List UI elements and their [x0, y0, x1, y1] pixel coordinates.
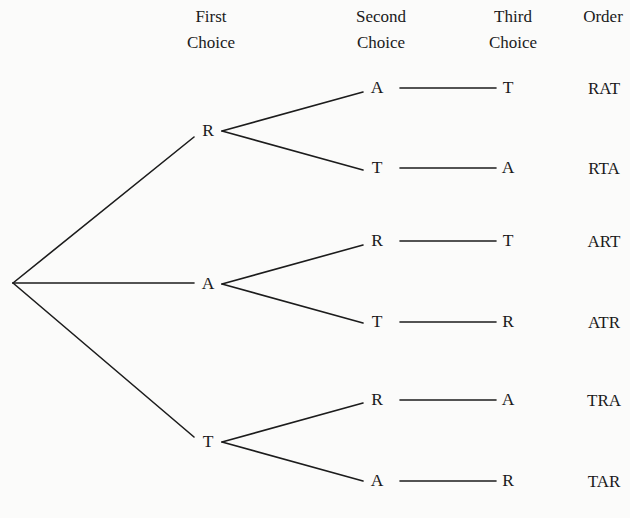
node-first-R: R: [202, 122, 214, 140]
order-RAT: RAT: [588, 80, 620, 97]
edge-T-A: [222, 442, 363, 481]
node-second-RT: T: [372, 159, 383, 177]
node-second-RA: A: [371, 79, 384, 97]
edge-root-T: [13, 283, 194, 437]
edge-R-T: [222, 131, 363, 170]
edge-A-T: [222, 284, 363, 323]
node-third-ART: T: [503, 232, 514, 250]
node-first-T: T: [203, 433, 214, 451]
tree-edges: [0, 0, 630, 518]
node-second-TR: R: [371, 391, 383, 409]
node-second-AT: T: [372, 313, 383, 331]
node-third-ATR: R: [502, 313, 514, 331]
node-third-TRA: A: [502, 391, 515, 409]
order-ATR: ATR: [588, 314, 620, 331]
order-ART: ART: [588, 233, 621, 250]
node-second-TA: A: [371, 472, 384, 490]
node-third-TAR: R: [502, 472, 514, 490]
edge-T-R: [222, 403, 363, 442]
order-TRA: TRA: [587, 392, 621, 409]
edge-R-A: [222, 92, 363, 131]
edge-A-R: [222, 245, 363, 284]
diagram-page: First Choice Second Choice Third Choice …: [0, 0, 630, 518]
node-first-A: A: [202, 275, 215, 293]
order-TAR: TAR: [588, 473, 621, 490]
edge-root-R: [13, 137, 194, 283]
node-third-RTA: A: [502, 159, 515, 177]
node-second-AR: R: [371, 232, 383, 250]
node-third-RAT: T: [503, 79, 514, 97]
order-RTA: RTA: [588, 160, 620, 177]
